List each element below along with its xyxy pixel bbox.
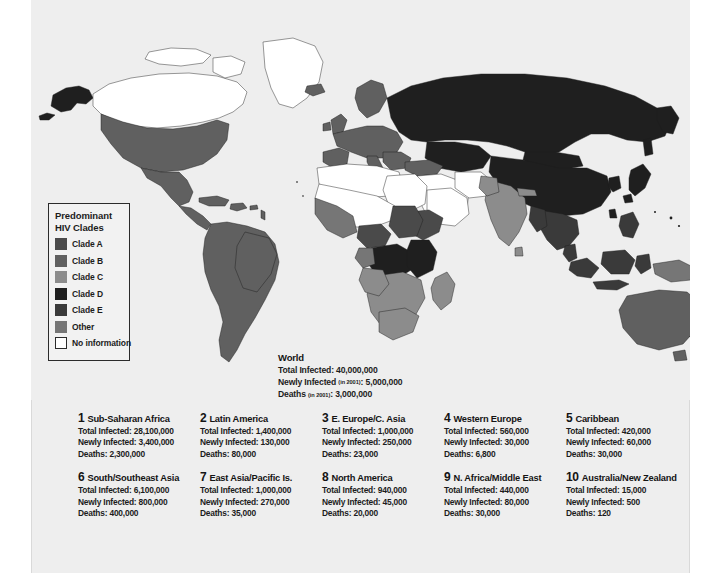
region-heading: 5Caribbean xyxy=(566,412,688,425)
other-swatch xyxy=(55,321,67,333)
region-deaths-line: Deaths: 20,000 xyxy=(322,508,444,519)
region-name: Caribbean xyxy=(575,413,619,425)
region-deaths-line: Deaths: 400,000 xyxy=(78,508,200,519)
legend-label: Clade C xyxy=(72,272,103,282)
legend-title-line1: Predominant xyxy=(55,210,124,222)
region-newly-line: Newly Infected: 250,000 xyxy=(322,437,444,448)
region-heading: 3E. Europe/C. Asia xyxy=(322,412,444,425)
legend-label: Clade A xyxy=(72,239,103,249)
region-heading: 8North America xyxy=(322,471,444,484)
region-stats-block: 2Latin AmericaTotal Infected: 1,400,000N… xyxy=(200,412,322,460)
clade-b-swatch xyxy=(55,255,67,267)
region-deaths-line: Deaths: 2,300,000 xyxy=(78,449,200,460)
region-stats-block: 8North AmericaTotal Infected: 940,000New… xyxy=(322,471,444,519)
pacific-island-speck xyxy=(654,211,656,213)
region-deaths-line: Deaths: 80,000 xyxy=(200,449,322,460)
world-stats-block: World Total Infected: 40,000,000 Newly I… xyxy=(278,352,458,402)
region-name: Western Europe xyxy=(453,413,521,425)
region-number: 8 xyxy=(322,471,328,483)
region-total-line: Total Infected: 15,000 xyxy=(566,485,688,496)
world-newly-infected: Newly Infected (in 2001): 5,000,000 xyxy=(278,377,458,390)
region-stats-block: 5CaribbeanTotal Infected: 420,000Newly I… xyxy=(566,412,688,460)
region-total-line: Total Infected: 28,100,000 xyxy=(78,426,200,437)
legend-row: Other xyxy=(55,319,124,336)
legend-title: Predominant HIV Clades xyxy=(55,210,124,233)
region-name: Australia/New Zealand xyxy=(582,472,677,484)
region-stats-block: 4Western EuropeTotal Infected: 560,000Ne… xyxy=(444,412,566,460)
world-total-infected-label: Total Infected: xyxy=(278,365,336,375)
region-total-line: Total Infected: 1,400,000 xyxy=(200,426,322,437)
region-name: N. Africa/Middle East xyxy=(453,472,541,484)
region-newly-line: Newly Infected: 60,000 xyxy=(566,437,688,448)
page-root: Predominant HIV Clades Clade AClade BCla… xyxy=(0,0,711,573)
region-newly-line: Newly Infected: 30,000 xyxy=(444,437,566,448)
region-name: Sub-Saharan Africa xyxy=(87,413,169,425)
region-heading: 4Western Europe xyxy=(444,412,566,425)
island-puerto-rico xyxy=(250,205,258,210)
legend-row: No information xyxy=(55,335,124,352)
region-stats-block: 3E. Europe/C. AsiaTotal Infected: 1,000,… xyxy=(322,412,444,460)
legend-row: Clade A xyxy=(55,236,124,253)
region-total-line: Total Infected: 560,000 xyxy=(444,426,566,437)
legend-row: Clade D xyxy=(55,286,124,303)
region-newly-line: Newly Infected: 270,000 xyxy=(200,497,322,508)
lesser-antilles xyxy=(261,210,265,220)
island-sri-lanka xyxy=(515,247,523,256)
world-deaths-label: Deaths xyxy=(278,389,308,399)
world-total-infected-value: 40,000,000 xyxy=(336,365,378,375)
legend-row: Clade B xyxy=(55,253,124,270)
clade-d-swatch xyxy=(55,288,67,300)
island-tasmania xyxy=(673,350,687,361)
region-deaths-line: Deaths: 120 xyxy=(566,508,688,519)
no-information-swatch xyxy=(55,337,67,349)
region-heading: 7East Asia/Pacific Is. xyxy=(200,471,322,484)
region-deaths-line: Deaths: 23,000 xyxy=(322,449,444,460)
region-number: 1 xyxy=(78,412,84,424)
region-number: 6 xyxy=(78,471,84,483)
legend-label: Clade D xyxy=(72,289,103,299)
region-name: South/Southeast Asia xyxy=(87,472,179,484)
pacific-island-speck xyxy=(670,217,673,220)
legend-row: Clade C xyxy=(55,269,124,286)
region-newly-line: Newly Infected: 3,400,000 xyxy=(78,437,200,448)
region-stats-block: 7East Asia/Pacific Is.Total Infected: 1,… xyxy=(200,471,322,519)
map-legend: Predominant HIV Clades Clade AClade BCla… xyxy=(48,203,130,361)
world-stats-title: World xyxy=(278,352,458,364)
world-newly-infected-note: (in 2001) xyxy=(338,379,360,385)
world-deaths: Deaths (in 2001): 3,000,000 xyxy=(278,389,458,402)
region-total-line: Total Infected: 1,000,000 xyxy=(322,426,444,437)
clade-a-swatch xyxy=(55,238,67,250)
region-total-line: Total Infected: 6,100,000 xyxy=(78,485,200,496)
legend-title-line2: HIV Clades xyxy=(55,222,124,234)
legend-label: No information xyxy=(72,338,131,348)
region-total-line: Total Infected: 420,000 xyxy=(566,426,688,437)
region-heading: 2Latin America xyxy=(200,412,322,425)
region-total-line: Total Infected: 440,000 xyxy=(444,485,566,496)
region-deaths-line: Deaths: 35,000 xyxy=(200,508,322,519)
region-number: 9 xyxy=(444,471,450,483)
world-newly-infected-value: 5,000,000 xyxy=(366,377,403,387)
region-number: 3 xyxy=(322,412,328,424)
region-number: 2 xyxy=(200,412,206,424)
legend-row: Clade E xyxy=(55,302,124,319)
region-stats-block: 10Australia/New ZealandTotal Infected: 1… xyxy=(566,471,688,519)
region-heading: 6South/Southeast Asia xyxy=(78,471,200,484)
region-stats-block: 9N. Africa/Middle EastTotal Infected: 44… xyxy=(444,471,566,519)
region-heading: 1Sub-Saharan Africa xyxy=(78,412,200,425)
region-stats-block: 1Sub-Saharan AfricaTotal Infected: 28,10… xyxy=(78,412,200,460)
sakhalin xyxy=(643,138,653,156)
world-total-infected: Total Infected: 40,000,000 xyxy=(278,365,458,377)
clade-e-swatch xyxy=(55,304,67,316)
region-name: North America xyxy=(331,472,392,484)
region-stats-block: 6South/Southeast AsiaTotal Infected: 6,1… xyxy=(78,471,200,519)
region-row: 1Sub-Saharan AfricaTotal Infected: 28,10… xyxy=(78,412,690,460)
legend-label: Clade B xyxy=(72,256,103,266)
region-number: 7 xyxy=(200,471,206,483)
region-number: 10 xyxy=(566,471,579,483)
region-total-line: Total Infected: 940,000 xyxy=(322,485,444,496)
region-name: East Asia/Pacific Is. xyxy=(209,472,292,484)
region-stats-grid: 1Sub-Saharan AfricaTotal Infected: 28,10… xyxy=(78,412,690,530)
atlantic-island-speck xyxy=(302,195,304,197)
region-newly-line: Newly Infected: 45,000 xyxy=(322,497,444,508)
atlantic-island-speck xyxy=(296,181,298,183)
